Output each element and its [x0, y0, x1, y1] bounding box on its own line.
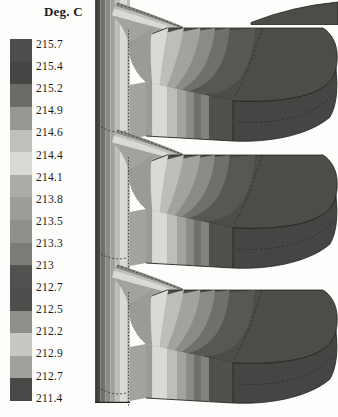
main-plot-svg: [0, 0, 338, 417]
fin-partial-top-rim: [251, 2, 338, 25]
tube-stripe-5: [116, 0, 121, 403]
tube-stripe-1: [96, 0, 101, 403]
tube-stripe-2: [101, 0, 106, 403]
contour-figure: Deg. C 215.7215.4215.2214.9214.6214.4214…: [0, 0, 338, 417]
tube-bottom-outline: [95, 402, 130, 403]
fin-2: [98, 130, 338, 272]
tube-wall: [95, 0, 130, 403]
fin-3: [98, 265, 338, 407]
tube-stripe-6: [121, 0, 128, 403]
tube-stripe-4: [111, 0, 116, 403]
tube-left-outline: [95, 0, 96, 403]
tube-stripe-3: [106, 0, 111, 403]
